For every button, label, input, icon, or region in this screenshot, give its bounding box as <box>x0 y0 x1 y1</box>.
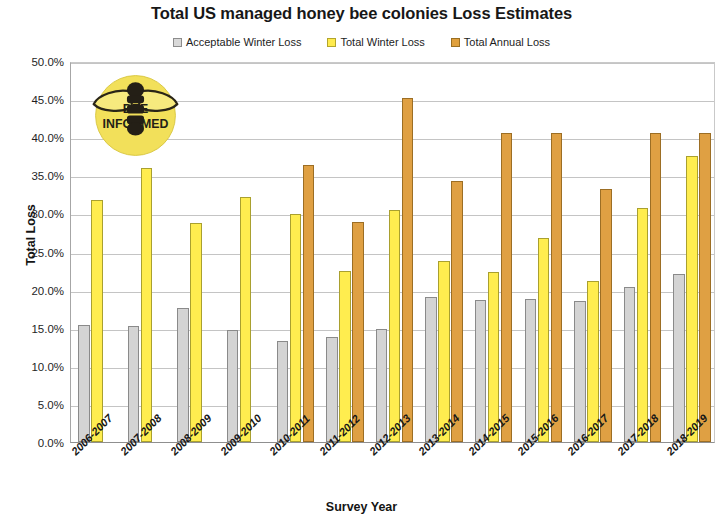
bar <box>277 341 289 442</box>
bar-group <box>666 63 716 442</box>
bar <box>190 223 202 442</box>
bar <box>303 165 315 442</box>
bar-group <box>468 63 518 442</box>
legend-swatch-icon <box>451 38 460 47</box>
bar-group <box>418 63 468 442</box>
bar <box>574 301 586 442</box>
bar <box>525 299 537 442</box>
y-axis-tick-label: 15.0% <box>4 323 64 335</box>
y-axis-tick-label: 35.0% <box>4 170 64 182</box>
bar-group <box>567 63 617 442</box>
y-axis-tick-label: 50.0% <box>4 56 64 68</box>
bar <box>451 181 463 442</box>
bee-informed-logo: BEE INFORMED <box>88 68 183 163</box>
chart-legend: Acceptable Winter LossTotal Winter LossT… <box>0 36 723 48</box>
bar <box>78 325 90 442</box>
bar-group <box>518 63 568 442</box>
bar <box>227 330 239 442</box>
bar <box>290 214 302 442</box>
bar <box>425 297 437 442</box>
y-axis-tick-label: 20.0% <box>4 285 64 297</box>
bar <box>141 168 153 442</box>
x-axis-title: Survey Year <box>0 500 723 514</box>
y-axis-tick-label: 25.0% <box>4 247 64 259</box>
legend-item: Total Annual Loss <box>451 36 550 48</box>
legend-item: Total Winter Loss <box>327 36 424 48</box>
logo-text-bee: BEE <box>123 102 148 116</box>
bar <box>389 210 401 442</box>
y-axis-tick-label: 10.0% <box>4 361 64 373</box>
legend-label: Total Winter Loss <box>340 36 424 48</box>
legend-label: Acceptable Winter Loss <box>186 36 302 48</box>
bar-group <box>369 63 419 442</box>
chart-title: Total US managed honey bee colonies Loss… <box>0 4 723 23</box>
bar <box>551 133 563 442</box>
bar <box>699 133 711 442</box>
bar <box>600 189 612 442</box>
bar <box>326 337 338 442</box>
legend-item: Acceptable Winter Loss <box>173 36 302 48</box>
bar <box>376 329 388 442</box>
logo-text-informed: INFORMED <box>103 117 169 131</box>
bar <box>686 156 698 442</box>
bar-group <box>319 63 369 442</box>
y-axis-tick-label: 30.0% <box>4 208 64 220</box>
y-axis-tick-label: 40.0% <box>4 132 64 144</box>
legend-swatch-icon <box>173 38 182 47</box>
bar <box>673 274 685 442</box>
bar <box>538 238 550 442</box>
bar <box>650 133 662 442</box>
bar <box>128 326 140 442</box>
bar <box>352 222 364 442</box>
bar <box>402 98 414 442</box>
chart-container: Total US managed honey bee colonies Loss… <box>0 0 723 524</box>
bar <box>501 133 513 442</box>
y-axis-title: Total Loss <box>24 175 38 295</box>
bar-group <box>269 63 319 442</box>
bar <box>624 287 636 442</box>
bar-group <box>220 63 270 442</box>
bar <box>177 308 189 442</box>
bar-group <box>617 63 667 442</box>
legend-label: Total Annual Loss <box>464 36 550 48</box>
y-axis-tick-label: 5.0% <box>4 399 64 411</box>
bar <box>475 300 487 442</box>
y-axis-tick-label: 45.0% <box>4 94 64 106</box>
y-axis-tick-label: 0.0% <box>4 437 64 449</box>
legend-swatch-icon <box>327 38 336 47</box>
bar <box>91 200 103 442</box>
bar <box>240 197 252 442</box>
bar <box>637 208 649 442</box>
